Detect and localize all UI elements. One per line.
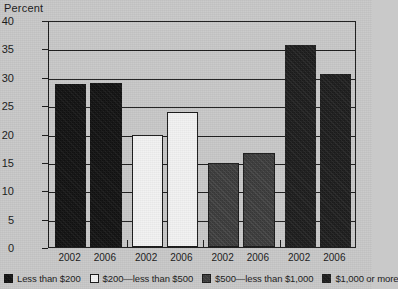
y-axis-tick-mark (42, 248, 48, 249)
y-axis-tick-label: 5 (0, 215, 14, 226)
legend-label: $1,000 or more (335, 273, 398, 284)
y-axis-tick-label: 25 (0, 101, 14, 112)
legend-swatch-icon (4, 274, 13, 283)
legend-label: Less than $200 (17, 273, 81, 284)
legend-swatch-icon (322, 274, 331, 283)
chart-legend: Less than $200$200—less than $500$500—le… (4, 271, 370, 285)
legend-item-4[interactable]: $1,000 or more (322, 273, 398, 284)
x-axis-tick-label: 2006 (170, 252, 192, 263)
y-axis-tick-label: 0 (0, 243, 14, 254)
y-axis-tick-label: 30 (0, 73, 14, 84)
y-axis-tick-label: 10 (0, 186, 14, 197)
y-axis-tick-label: 20 (0, 130, 14, 141)
y-axis-tick-mark (42, 135, 48, 136)
x-axis-tick-label: 2002 (212, 252, 234, 263)
legend-item-2[interactable]: $200—less than $500 (90, 273, 194, 284)
x-axis-tick-label: 2002 (288, 252, 310, 263)
y-axis-tick-label: 35 (0, 44, 14, 55)
x-axis-group-tick (280, 240, 281, 247)
bar-series-container (49, 22, 355, 247)
x-axis-labels: 20022006200220062002200620022006 (48, 252, 356, 266)
legend-label: $500—less than $1,000 (215, 273, 313, 284)
y-axis-tick-label: 40 (0, 16, 14, 27)
legend-item-1[interactable]: Less than $200 (4, 273, 81, 284)
bar-2002-1 (55, 84, 86, 247)
x-axis-tick-label: 2006 (247, 252, 269, 263)
x-axis-group-tick (127, 240, 128, 247)
bar-2002-4 (285, 45, 316, 247)
bar-2006-1 (90, 83, 121, 247)
y-axis-title: Percent (4, 2, 43, 14)
legend-item-3[interactable]: $500—less than $1,000 (202, 273, 313, 284)
x-axis-group-tick (203, 240, 204, 247)
y-axis-tick-mark (42, 106, 48, 107)
x-axis-tick-label: 2006 (94, 252, 116, 263)
y-axis-tick-mark (42, 220, 48, 221)
x-axis-tick-label: 2002 (135, 252, 157, 263)
y-axis-tick-mark (42, 49, 48, 50)
y-axis-tick-mark (42, 163, 48, 164)
y-axis-tick-mark (42, 78, 48, 79)
bar-2002-3 (208, 163, 239, 247)
legend-label: $200—less than $500 (103, 273, 194, 284)
bar-2002-2 (132, 135, 163, 247)
x-axis-tick-label: 2006 (323, 252, 345, 263)
bar-2006-3 (243, 153, 274, 247)
chart-plot-area (48, 21, 356, 248)
x-axis-tick-label: 2002 (59, 252, 81, 263)
y-axis-tick-mark (42, 21, 48, 22)
bar-2006-2 (167, 112, 198, 247)
y-axis-tick-label: 15 (0, 158, 14, 169)
bar-2006-4 (320, 74, 351, 247)
y-axis-tick-mark (42, 191, 48, 192)
legend-swatch-icon (90, 274, 99, 283)
legend-swatch-icon (202, 274, 211, 283)
